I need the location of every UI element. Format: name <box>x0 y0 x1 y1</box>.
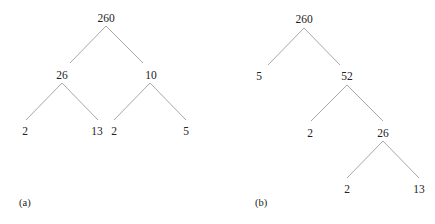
tree-node-b_2b: 2 <box>344 183 350 195</box>
tree-edge <box>114 83 150 120</box>
tree-node-b_52: 52 <box>341 70 353 82</box>
tree-edge <box>347 85 383 121</box>
tree-node-a_5: 5 <box>183 125 189 137</box>
tree-edge <box>383 141 419 178</box>
tree-node-a_2b: 2 <box>111 125 117 137</box>
tree-edges <box>0 0 435 224</box>
tree-edge <box>106 26 143 63</box>
tree-edge <box>26 83 62 120</box>
tree-edge <box>268 28 304 65</box>
factor-tree-figure: 260261021325(a) 260552226213(b) <box>0 0 435 224</box>
tree-node-b_5: 5 <box>256 70 262 82</box>
tree-node-a_13: 13 <box>91 125 103 137</box>
tree-node-b_26: 26 <box>377 127 389 139</box>
tree-node-b_2a: 2 <box>307 127 313 139</box>
tree-edge <box>304 28 340 65</box>
tree-edge <box>347 141 383 178</box>
tree-node-b_13: 13 <box>413 183 425 195</box>
tree-edge <box>311 85 347 121</box>
tree-node-a_root: 260 <box>97 12 114 24</box>
tree-node-a_2a: 2 <box>22 125 28 137</box>
tree-node-a_26: 26 <box>56 69 68 81</box>
tree-node-a_10: 10 <box>145 69 157 81</box>
tree-edge <box>62 83 98 120</box>
tree-edge <box>70 26 106 63</box>
tree-node-b_root: 260 <box>295 13 312 25</box>
tree-caption: (a) <box>19 197 31 209</box>
tree-edge <box>150 83 186 120</box>
tree-caption: (b) <box>255 197 267 209</box>
